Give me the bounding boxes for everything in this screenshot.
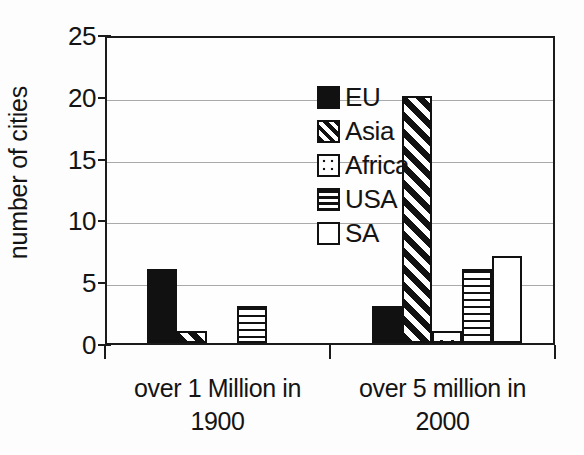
legend-label: USA: [345, 184, 397, 215]
legend-item-sa[interactable]: SA: [317, 218, 409, 248]
legend-item-usa[interactable]: USA: [317, 184, 409, 214]
bar-usa-cat2: [462, 269, 492, 343]
legend-label: Africa: [345, 150, 409, 181]
plot-area: EUAsiaAfricaUSASA: [105, 36, 555, 345]
x-category-label: over 1 Million in1900: [103, 372, 333, 438]
x-category-label-line: 2000: [328, 405, 558, 438]
bar-usa-cat1: [237, 306, 267, 343]
y-tick-label: 5: [38, 268, 96, 299]
y-tick-label: 20: [38, 82, 96, 113]
legend-swatch-sa-icon: [317, 222, 340, 245]
bar-eu-cat1: [147, 269, 177, 343]
legend-label: EU: [345, 82, 380, 113]
x-axis-tick: [329, 345, 331, 359]
x-category-label-line: 1900: [103, 405, 333, 438]
chart-figure: number of cities 0510152025 EUAsiaAfrica…: [0, 0, 584, 455]
bar-eu-cat2: [372, 306, 402, 343]
x-axis-tick: [554, 345, 556, 359]
y-tick-label: 15: [38, 144, 96, 175]
legend-item-africa[interactable]: Africa: [317, 150, 409, 180]
y-axis-title: number of cities: [0, 0, 36, 345]
legend-label: SA: [345, 218, 379, 249]
legend-swatch-usa-icon: [317, 188, 340, 211]
x-category-label: over 5 million in2000: [328, 372, 558, 438]
legend-swatch-eu-icon: [317, 86, 340, 109]
x-axis-tick: [104, 345, 106, 359]
y-axis-tick-labels: 0510152025: [38, 0, 96, 455]
legend-item-asia[interactable]: Asia: [317, 116, 409, 146]
bar-africa-cat2: [432, 331, 462, 343]
x-category-label-line: over 1 Million in: [103, 372, 333, 405]
y-tick-label: 10: [38, 206, 96, 237]
y-tick-label: 0: [38, 330, 96, 361]
x-category-label-line: over 5 million in: [328, 372, 558, 405]
chart-legend: EUAsiaAfricaUSASA: [317, 82, 409, 248]
legend-label: Asia: [345, 116, 394, 147]
legend-item-eu[interactable]: EU: [317, 82, 409, 112]
bar-sa-cat2: [492, 256, 522, 343]
legend-swatch-africa-icon: [317, 154, 340, 177]
legend-swatch-asia-icon: [317, 120, 340, 143]
bar-asia-cat1: [177, 331, 207, 343]
y-tick-label: 25: [38, 21, 96, 52]
